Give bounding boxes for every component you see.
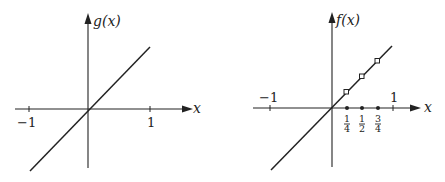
right-tick-label-neg1: −1 xyxy=(259,90,278,105)
axis-dot-quarter xyxy=(345,106,349,110)
right-xlabel: x xyxy=(424,99,432,115)
left-ylabel: g(x) xyxy=(93,13,121,29)
left-tick-label-neg1: −1 xyxy=(17,115,36,130)
frac-den-three-quarter: 4 xyxy=(375,123,381,134)
left-y-axis-arrow-icon xyxy=(85,13,92,24)
left-graph-g xyxy=(15,13,193,171)
axis-dot-three-quarter xyxy=(376,106,380,110)
right-x-axis-arrow-icon xyxy=(410,105,421,112)
open-point-quarter xyxy=(344,90,349,95)
open-point-half xyxy=(360,74,365,79)
axis-dot-half xyxy=(360,106,364,110)
right-ylabel: f(x) xyxy=(335,12,360,28)
frac-den-quarter: 4 xyxy=(344,123,350,134)
left-tick-label-1: 1 xyxy=(147,115,155,130)
frac-den-half: 2 xyxy=(359,123,365,134)
right-tick-label-1: 1 xyxy=(390,90,398,105)
open-point-three-quarter xyxy=(375,59,380,64)
left-x-axis-arrow-icon xyxy=(182,106,193,113)
right-y-axis-arrow-icon xyxy=(329,12,336,23)
left-xlabel: x xyxy=(193,100,201,116)
figure: g(x) x −1 1 f(x) x −1 1 1 4 1 2 3 4 xyxy=(0,0,445,182)
